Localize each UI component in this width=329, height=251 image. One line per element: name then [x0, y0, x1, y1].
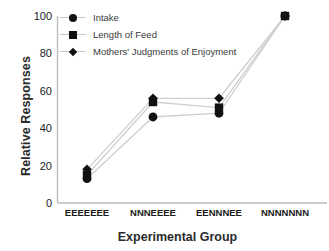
- chart-legend: Intake Length of Feed Mothers' Judgments…: [60, 10, 236, 61]
- diamond-marker-icon: [69, 47, 77, 55]
- legend-line-sample: [60, 17, 86, 18]
- legend-label-intake: Intake: [93, 12, 119, 23]
- legend-line-sample: [60, 34, 86, 35]
- legend-line-sample: [60, 51, 86, 52]
- data-point-marker: [215, 103, 223, 111]
- legend-item-mothers-judgments: Mothers' Judgments of Enjoyment: [60, 44, 236, 59]
- circle-marker-icon: [69, 14, 77, 22]
- square-marker-icon: [69, 31, 77, 39]
- legend-label-mothers-judgments: Mothers' Judgments of Enjoyment: [93, 46, 236, 57]
- chart-figure: Relative Responses Experimental Group 10…: [0, 0, 329, 251]
- data-point-marker: [149, 113, 158, 122]
- legend-label-length-of-feed: Length of Feed: [93, 29, 157, 40]
- legend-item-intake: Intake: [60, 10, 236, 25]
- legend-item-length-of-feed: Length of Feed: [60, 27, 236, 42]
